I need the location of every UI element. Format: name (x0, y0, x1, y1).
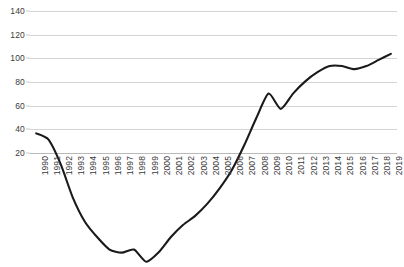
x-tick-label-1997: 1997 (125, 156, 135, 175)
y-axis: 14012010080604020 (0, 0, 30, 153)
y-tick-label-20: 20 (15, 148, 25, 158)
y-tick-label-140: 140 (10, 6, 25, 16)
x-tick-label-2018: 2018 (382, 156, 392, 175)
x-tick-label-1992: 1992 (64, 156, 74, 175)
x-tick-label-1994: 1994 (88, 156, 98, 175)
x-tick-label-2010: 2010 (284, 156, 294, 175)
x-tick-label-2017: 2017 (370, 156, 380, 175)
x-tick-label-1999: 1999 (150, 156, 160, 175)
y-tick-label-120: 120 (10, 30, 25, 40)
x-tick-label-2004: 2004 (211, 156, 221, 175)
x-tick-label-2013: 2013 (321, 156, 331, 175)
x-tick-label-2009: 2009 (272, 156, 282, 175)
x-tick-label-2011: 2011 (296, 156, 306, 175)
x-tick-label-1995: 1995 (101, 156, 111, 175)
x-tick-label-1998: 1998 (137, 156, 147, 175)
x-tick-label-2019: 2019 (394, 156, 404, 175)
x-tick-label-1996: 1996 (113, 156, 123, 175)
x-tick-label-2005: 2005 (223, 156, 233, 175)
x-tick-label-2012: 2012 (309, 156, 319, 175)
x-tick-label-2002: 2002 (186, 156, 196, 175)
x-tick-label-2000: 2000 (162, 156, 172, 175)
x-tick-label-2001: 2001 (174, 156, 184, 175)
x-tick-label-2008: 2008 (260, 156, 270, 175)
x-tick-label-1990: 1990 (40, 156, 50, 175)
x-tick-label-2007: 2007 (247, 156, 257, 175)
x-tick-label-2006: 2006 (235, 156, 245, 175)
x-tick-label-2015: 2015 (345, 156, 355, 175)
source-caption: (clipped source note) (0, 209, 399, 218)
x-tick-label-2014: 2014 (333, 156, 343, 175)
y-tick-label-80: 80 (15, 77, 25, 87)
y-tick-label-100: 100 (10, 53, 25, 63)
plot-area (30, 11, 397, 153)
x-tick-label-1993: 1993 (76, 156, 86, 175)
y-tick-label-40: 40 (15, 124, 25, 134)
x-tick-label-1991: 1991 (52, 156, 62, 175)
x-axis: 1990199119921993199419951996199719981999… (30, 153, 397, 199)
series-layer (30, 11, 397, 267)
x-tick-label-2016: 2016 (358, 156, 368, 175)
x-tick-label-2003: 2003 (199, 156, 209, 175)
y-tick-label-60: 60 (15, 101, 25, 111)
